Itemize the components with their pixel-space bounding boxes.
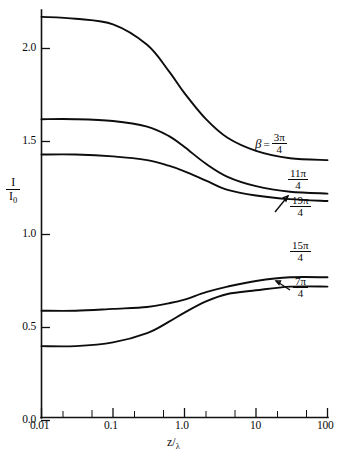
curve-series-3 (42, 277, 328, 311)
leader-arrow-7pi (276, 281, 281, 285)
y-axis-title-denominator: I0 (6, 190, 20, 205)
leader-line-7pi (276, 281, 290, 290)
x-axis-ticks-major (42, 408, 328, 417)
equals-symbol: = (262, 138, 270, 150)
x-tick-label-1: 0.1 (104, 419, 118, 431)
curve-label-15pi: 15π 4 (290, 240, 311, 263)
y-tick-label-4: 2.0 (6, 41, 36, 53)
beta-symbol: β (255, 136, 261, 152)
fraction-11pi-4: 11π 4 (288, 168, 308, 191)
curve-label-19pi: 19π 4 (290, 195, 311, 218)
x-tick-label-4: 100 (317, 419, 334, 431)
fraction-7pi-4: 7π 4 (293, 276, 308, 299)
x-tick-label-0: 0.01 (30, 419, 49, 431)
fraction-15pi-4: 15π 4 (290, 240, 311, 263)
y-tick-label-2: 1.0 (6, 227, 36, 239)
y-axis-title-numerator: I (6, 176, 20, 190)
chart-canvas (0, 0, 343, 460)
curve-label-7pi: 7π 4 (293, 276, 308, 299)
x-axis-title: z/λ (167, 435, 180, 451)
curve-series-2 (42, 154, 328, 201)
y-axis-ticks (41, 49, 50, 421)
y-tick-label-1: 0.5 (6, 320, 36, 332)
curve-label-11pi: 11π 4 (288, 168, 308, 191)
chart-figure: 0.0 0.5 1.0 1.5 2.0 0.01 0.1 1.0 10 100 … (0, 0, 343, 460)
y-axis-title: I I0 (6, 176, 20, 205)
fraction-19pi-4: 19π 4 (290, 195, 311, 218)
curve-series-4 (42, 286, 328, 346)
data-curves (42, 17, 328, 346)
x-tick-label-2: 1.0 (175, 419, 189, 431)
fraction-3pi-4: 3π 4 (272, 132, 287, 155)
x-axis-title-sub: λ (176, 441, 180, 451)
x-tick-label-3: 10 (250, 419, 261, 431)
curve-label-3pi: β = 3π 4 (255, 132, 287, 155)
y-tick-label-3: 1.5 (6, 134, 36, 146)
